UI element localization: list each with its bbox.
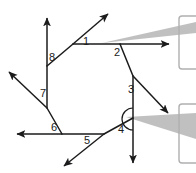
angle-label-2: 2 xyxy=(114,47,120,58)
octagon-side-top-right xyxy=(120,44,133,76)
angle-label-7: 7 xyxy=(40,88,46,99)
angle-label-5: 5 xyxy=(84,135,90,146)
angle-label-1: 1 xyxy=(83,36,89,47)
callout-pointer-lower xyxy=(126,113,196,139)
ray-1 xyxy=(73,14,108,44)
callout-pointer-upper xyxy=(102,22,196,43)
angle-label-8: 8 xyxy=(49,52,55,63)
ray-3 xyxy=(133,76,168,113)
angle-label-3: 3 xyxy=(128,84,134,95)
geometry-figure-canvas: 1 2 3 4 5 6 7 8 xyxy=(0,0,196,173)
angle-label-4: 4 xyxy=(118,124,124,135)
octagon-exterior-angles-svg xyxy=(0,0,196,173)
callout-group xyxy=(102,16,196,163)
angle-label-6: 6 xyxy=(51,122,57,133)
